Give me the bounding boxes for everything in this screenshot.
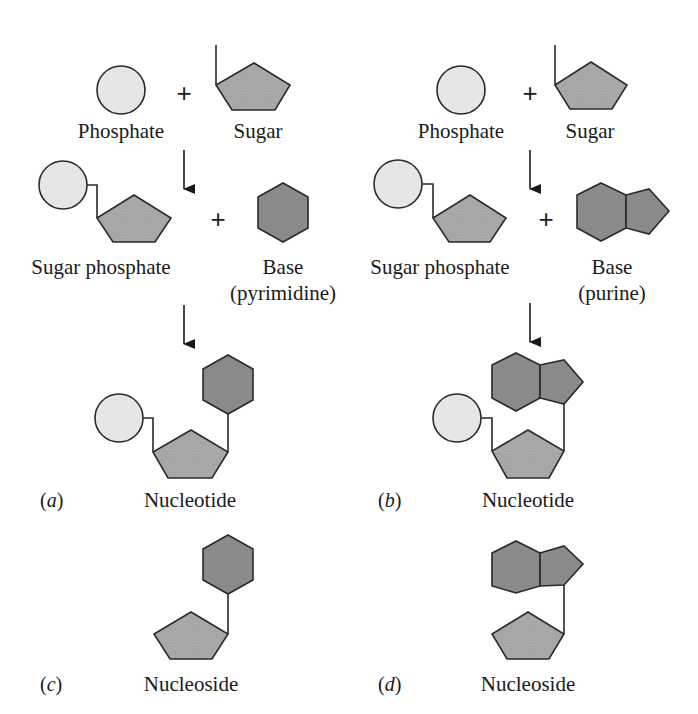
label-nucleotide: Nucleotide (144, 490, 236, 511)
panel-tag-a: (a) (40, 490, 63, 510)
label-base: Base (592, 257, 633, 278)
plus-icon: + (538, 206, 553, 232)
panel-tag-c: (c) (40, 674, 62, 694)
diagram-shapes (0, 0, 698, 714)
label-phosphate: Phosphate (418, 121, 504, 142)
label-base: Base (263, 257, 304, 278)
sugar-phosphate (39, 161, 171, 242)
label-phosphate: Phosphate (78, 121, 164, 142)
pyrimidine-hexagon (258, 183, 308, 242)
nucleotide-diagram: + + + + Phosphate Sugar Sugar phosphate … (0, 0, 698, 714)
label-sugar-phosphate: Sugar phosphate (31, 257, 170, 278)
plus-icon: + (522, 80, 537, 106)
purine-double-ring (577, 183, 669, 241)
plus-icon: + (176, 80, 191, 106)
plus-icon: + (210, 206, 225, 232)
sugar-pentagon (216, 45, 290, 110)
label-sugar: Sugar (234, 121, 283, 142)
label-sugar-phosphate: Sugar phosphate (370, 257, 509, 278)
sugar-phosphate (374, 160, 506, 242)
label-nucleotide: Nucleotide (482, 490, 574, 511)
panel-tag-b: (b) (378, 490, 401, 510)
label-nucleoside: Nucleoside (481, 674, 575, 695)
nucleotide-pyrimidine (95, 355, 253, 478)
nucleotide-purine (433, 353, 583, 478)
label-base-type: (pyrimidine) (230, 283, 336, 304)
nucleoside-pyrimidine (154, 535, 253, 659)
label-base-type: (purine) (578, 283, 646, 304)
panel-tag-d: (d) (378, 674, 401, 694)
sugar-pentagon (555, 45, 627, 109)
phosphate-circle (437, 66, 485, 114)
nucleoside-purine (492, 541, 583, 659)
label-sugar: Sugar (566, 121, 615, 142)
label-nucleoside: Nucleoside (144, 674, 238, 695)
phosphate-circle (97, 66, 145, 114)
